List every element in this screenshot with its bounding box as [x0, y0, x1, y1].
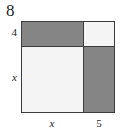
cell-top-left-shaded — [22, 22, 84, 47]
left-label-top-row: 4 — [0, 27, 17, 38]
cell-bottom-left-unshaded — [22, 47, 84, 112]
square-outline — [21, 21, 115, 113]
total-side-length-label: 8 — [6, 2, 15, 19]
area-model-diagram: 8 4 x x 5 — [0, 0, 123, 137]
bottom-label-left-column: x — [21, 118, 83, 129]
bottom-label-right-column: 5 — [83, 118, 115, 129]
cell-top-right-unshaded — [84, 22, 114, 47]
left-label-bottom-row: x — [0, 72, 17, 83]
cell-bottom-right-shaded — [84, 47, 114, 112]
